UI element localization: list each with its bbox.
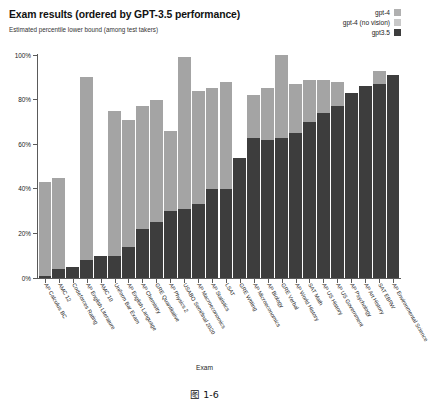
y-axis-tick: 80%	[0, 96, 37, 104]
bar-gpt35	[387, 75, 400, 278]
bar-gpt35	[150, 222, 163, 278]
bar-gpt35	[247, 138, 260, 278]
y-axis-tick-label: 60%	[18, 141, 31, 148]
bar-gpt35	[66, 267, 79, 278]
bar-group[interactable]	[289, 55, 302, 278]
bar-group[interactable]	[331, 55, 344, 278]
bar-group[interactable]	[233, 55, 246, 278]
bar-gpt35	[108, 256, 121, 278]
x-axis-tick-mark	[66, 279, 80, 283]
x-axis-tick-mark	[205, 279, 219, 283]
x-axis-tick-mark	[261, 279, 275, 283]
legend-label-gpt4-no-vision: gpt-4 (no vision)	[343, 19, 390, 26]
chart-legend: gpt-4 gpt-4 (no vision) gpt3.5	[343, 8, 401, 36]
bar-group[interactable]	[387, 55, 400, 278]
bar-group[interactable]	[275, 55, 288, 278]
bar-gpt35	[275, 138, 288, 278]
bar-group[interactable]	[108, 55, 121, 278]
bar-gpt35	[303, 122, 316, 278]
legend-label-gpt35: gpt3.5	[372, 29, 390, 36]
bar-gpt35	[136, 229, 149, 278]
y-axis-tick: 40%	[0, 185, 37, 193]
plot-area	[38, 55, 400, 278]
bar-group[interactable]	[136, 55, 149, 278]
bar-gpt35	[206, 189, 219, 278]
bar-group[interactable]	[66, 55, 79, 278]
bar-gpt35	[289, 133, 302, 278]
y-axis-tick: 100%	[0, 51, 37, 59]
y-axis-tick-label: 20%	[18, 230, 31, 237]
legend-item-gpt4[interactable]: gpt-4	[375, 8, 401, 16]
y-axis-tick: 20%	[0, 229, 37, 237]
bar-group[interactable]	[178, 55, 191, 278]
x-axis-tick-mark	[52, 279, 66, 283]
bar-gpt4-no-vision	[39, 182, 52, 278]
x-axis-tick-mark	[38, 279, 52, 283]
bars-layer	[38, 55, 400, 278]
bar-group[interactable]	[261, 55, 274, 278]
bar-gpt35	[233, 158, 246, 278]
legend-swatch-gpt4	[394, 9, 401, 16]
bar-gpt35	[80, 260, 93, 278]
legend-item-gpt35[interactable]: gpt3.5	[372, 28, 401, 36]
bar-group[interactable]	[317, 55, 330, 278]
bar-group[interactable]	[52, 55, 65, 278]
bar-group[interactable]	[192, 55, 205, 278]
x-axis-tick-mark	[247, 279, 261, 283]
bar-group[interactable]	[164, 55, 177, 278]
x-axis-tick-mark	[233, 279, 247, 283]
y-axis-tick-label: 40%	[18, 185, 31, 192]
bar-group[interactable]	[373, 55, 386, 278]
x-axis-tick-mark	[80, 279, 94, 283]
x-axis-tick-mark	[219, 279, 233, 283]
bar-group[interactable]	[303, 55, 316, 278]
bar-gpt35	[39, 276, 52, 278]
bar-group[interactable]	[220, 55, 233, 278]
bar-gpt35	[192, 204, 205, 278]
figure-caption: 图 1-6	[0, 387, 409, 401]
x-axis-tick-mark	[386, 279, 400, 283]
x-axis-title: Exam	[0, 364, 409, 371]
bar-gpt35	[261, 140, 274, 278]
bar-gpt35	[345, 93, 358, 278]
y-axis-tick-label: 0%	[22, 275, 31, 282]
x-axis-label: AP Environmental Science	[391, 283, 429, 343]
bar-gpt35	[94, 256, 107, 278]
legend-item-gpt4-no-vision[interactable]: gpt-4 (no vision)	[343, 18, 401, 26]
chart-title: Exam results (ordered by GPT-3.5 perform…	[9, 9, 240, 20]
legend-label-gpt4: gpt-4	[375, 9, 390, 16]
chart-subtitle: Estimated percentile lower bound (among …	[9, 26, 158, 33]
bar-gpt35	[52, 269, 65, 278]
bar-gpt35	[331, 106, 344, 278]
bar-group[interactable]	[345, 55, 358, 278]
x-axis-tick-mark	[108, 279, 122, 283]
x-axis-tick-mark	[289, 279, 303, 283]
y-axis-tick-label: 100%	[15, 52, 31, 59]
bar-gpt35	[317, 113, 330, 278]
y-axis-tick: 0%	[0, 274, 37, 282]
bar-group[interactable]	[39, 55, 52, 278]
x-axis-tick-mark	[94, 279, 108, 283]
bar-group[interactable]	[80, 55, 93, 278]
bar-group[interactable]	[150, 55, 163, 278]
bar-gpt4-no-vision	[80, 77, 93, 278]
bar-group[interactable]	[359, 55, 372, 278]
bar-gpt35	[220, 189, 233, 278]
x-axis-ticks	[38, 279, 400, 283]
y-axis-tick: 60%	[0, 140, 37, 148]
y-axis-tick-label: 80%	[18, 96, 31, 103]
bar-group[interactable]	[247, 55, 260, 278]
bar-gpt35	[122, 247, 135, 278]
x-axis-tick-mark	[275, 279, 289, 283]
bar-gpt35	[373, 84, 386, 278]
bar-gpt35	[178, 209, 191, 278]
legend-swatch-gpt4-no-vision	[394, 19, 401, 26]
bar-group[interactable]	[94, 55, 107, 278]
bar-gpt4-no-vision	[52, 178, 65, 278]
bar-gpt35	[164, 211, 177, 278]
bar-group[interactable]	[206, 55, 219, 278]
bar-group[interactable]	[122, 55, 135, 278]
legend-swatch-gpt35	[394, 29, 401, 36]
bar-gpt35	[359, 86, 372, 278]
